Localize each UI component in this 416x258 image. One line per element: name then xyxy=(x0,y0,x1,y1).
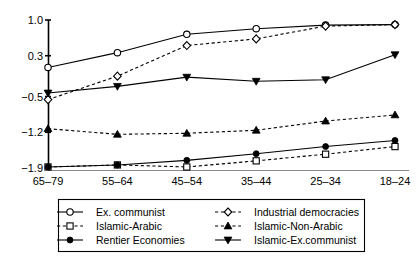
line-chart: 1.00.3−0.5−1.2−1.9 65–7955–6445–5435–442… xyxy=(0,0,416,258)
series-islamic-ex-communist xyxy=(44,52,399,97)
series-ex-communist xyxy=(45,21,398,70)
x-axis-tick-labels: 65–7955–6445–5435–4425–3418–24 xyxy=(33,175,411,187)
legend-marker-sample xyxy=(67,223,73,229)
data-point-marker xyxy=(183,42,191,50)
x-tick-label: 45–54 xyxy=(172,175,203,187)
legend-label: Islamic-Ex.communist xyxy=(254,234,356,246)
data-point-marker xyxy=(391,21,399,29)
x-tick-label: 18–24 xyxy=(380,175,411,187)
series-line xyxy=(48,55,395,93)
data-point-marker xyxy=(323,151,329,157)
x-tick-label: 65–79 xyxy=(33,175,64,187)
data-point-marker xyxy=(252,35,260,43)
data-point-marker xyxy=(253,158,259,164)
data-point-marker xyxy=(391,111,399,118)
legend-label: Islamic-Non-Arabic xyxy=(254,220,343,232)
series-industrial-democracies xyxy=(44,21,399,104)
legend-label: Islamic-Arabic xyxy=(96,220,162,232)
data-point-marker xyxy=(45,164,51,170)
legend-label: Rentier Economies xyxy=(96,234,185,246)
data-point-marker xyxy=(252,78,260,85)
y-tick-label: −1.2 xyxy=(21,126,43,138)
data-point-marker xyxy=(323,144,329,150)
y-tick-label: −0.5 xyxy=(21,91,43,103)
data-point-marker xyxy=(392,143,398,149)
data-point-marker xyxy=(114,49,120,55)
data-point-marker xyxy=(392,137,398,143)
legend-marker-sample xyxy=(67,209,73,215)
x-tick-label: 35–44 xyxy=(241,175,272,187)
series-line xyxy=(48,140,395,167)
data-point-marker xyxy=(184,31,190,37)
legend-label: Ex. communist xyxy=(96,206,165,218)
data-point-marker xyxy=(44,125,52,132)
x-tick-label: 55–64 xyxy=(102,175,133,187)
y-tick-label: 0.3 xyxy=(28,50,43,62)
series-layer xyxy=(44,21,399,170)
data-point-marker xyxy=(253,151,259,157)
data-point-marker xyxy=(184,157,190,163)
series-line xyxy=(48,115,395,134)
y-tick-label: −1.9 xyxy=(21,162,43,174)
data-point-marker xyxy=(45,64,51,70)
y-tick-label: 1.0 xyxy=(28,14,43,26)
chart-canvas: 1.00.3−0.5−1.2−1.9 65–7955–6445–5435–442… xyxy=(0,0,416,258)
data-point-marker xyxy=(114,162,120,168)
x-tick-label: 25–34 xyxy=(310,175,341,187)
series-line xyxy=(48,25,395,68)
series-islamic-non-arabic xyxy=(44,111,399,137)
data-point-marker xyxy=(253,25,259,31)
series-rentier-economies xyxy=(45,137,398,170)
data-point-marker xyxy=(184,164,190,170)
data-point-marker xyxy=(114,72,122,80)
legend-label: Industrial democracies xyxy=(254,206,359,218)
y-axis-tick-labels: 1.00.3−0.5−1.2−1.9 xyxy=(21,14,43,174)
legend-marker-sample xyxy=(67,237,73,243)
